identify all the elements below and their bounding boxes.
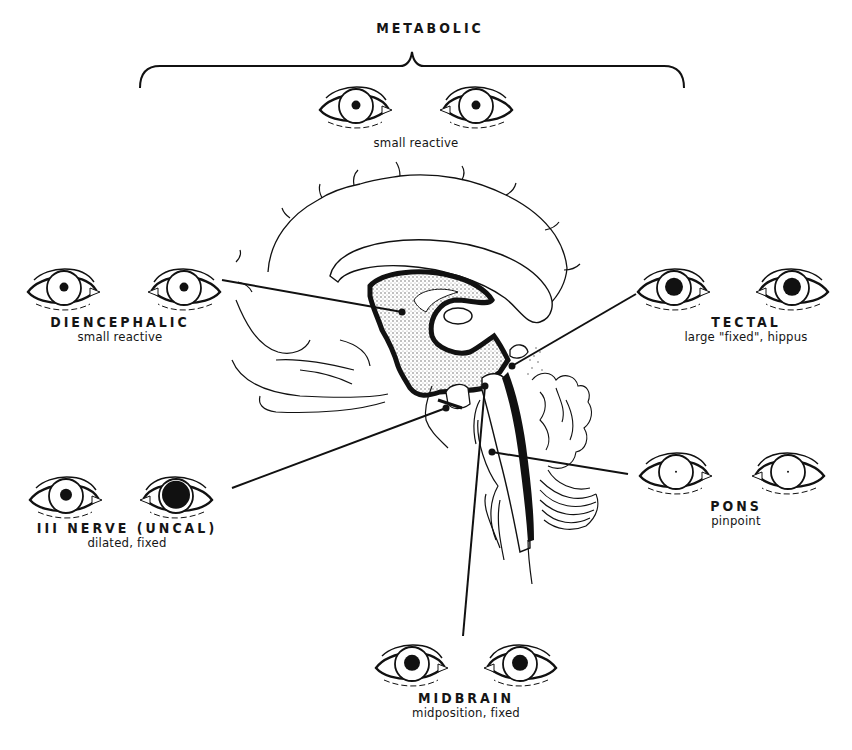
metabolic-description: small reactive	[316, 136, 516, 151]
cerebellum-icon	[532, 373, 591, 489]
iii-nerve-title: III NERVE (UNCAL)	[22, 520, 232, 536]
left-eye-icon	[30, 477, 102, 518]
left-eye-icon	[638, 269, 710, 310]
pons-description: pinpoint	[676, 514, 796, 529]
tectal-title: TECTAL	[646, 314, 846, 330]
right-eye-icon	[484, 645, 556, 686]
left-eye-icon	[376, 645, 448, 686]
eye-pair-icon	[24, 264, 224, 320]
eye-pair-icon	[372, 640, 560, 696]
label-metabolic: METABOLIC	[330, 20, 530, 36]
right-eye-icon	[140, 477, 212, 518]
eyes-tectal	[634, 264, 832, 320]
eyes-pons	[636, 448, 828, 504]
eye-pair-icon	[634, 264, 832, 320]
label-iii-nerve: III NERVE (UNCAL) dilated, fixed	[22, 520, 232, 551]
label-tectal: TECTAL large "fixed", hippus	[646, 314, 846, 345]
eyes-midbrain	[372, 640, 560, 696]
right-eye-icon	[752, 453, 824, 494]
label-midbrain: MIDBRAIN midposition, fixed	[366, 690, 566, 721]
diencephalic-title: DIENCEPHALIC	[30, 314, 210, 330]
midbrain-description: midposition, fixed	[366, 706, 566, 721]
left-eye-icon	[320, 87, 392, 128]
label-diencephalic: DIENCEPHALIC small reactive	[30, 314, 210, 345]
label-pons: PONS pinpoint	[676, 498, 796, 529]
tectal-description: large "fixed", hippus	[646, 330, 846, 345]
left-eye-icon	[640, 453, 712, 494]
metabolic-title: METABOLIC	[330, 20, 530, 36]
right-eye-icon	[756, 269, 828, 310]
eyes-diencephalic	[24, 264, 224, 320]
diencephalic-description: small reactive	[30, 330, 210, 345]
midbrain-title: MIDBRAIN	[366, 690, 566, 706]
pons-title: PONS	[676, 498, 796, 514]
eyes-metabolic	[316, 82, 516, 138]
pupil-lesion-diagram: METABOLIC small reactive DIENCEPHALIC sm…	[0, 0, 852, 750]
label-metabolic-desc: small reactive	[316, 136, 516, 151]
eye-pair-icon	[636, 448, 828, 504]
iii-nerve-description: dilated, fixed	[22, 536, 232, 551]
left-eye-icon	[28, 269, 100, 310]
right-eye-icon	[148, 269, 220, 310]
eye-pair-icon	[316, 82, 516, 138]
right-eye-icon	[440, 87, 512, 128]
